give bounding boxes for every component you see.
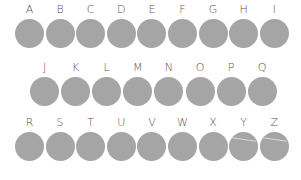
circle-token[interactable] bbox=[199, 132, 228, 161]
letter-label: C bbox=[76, 4, 105, 16]
circle-token[interactable] bbox=[260, 19, 289, 48]
letter-label: V bbox=[137, 117, 166, 129]
circle-token[interactable] bbox=[137, 19, 166, 48]
letter-label: L bbox=[92, 62, 121, 74]
circle-token[interactable] bbox=[137, 132, 166, 161]
circle-token[interactable] bbox=[168, 19, 197, 48]
circle-token[interactable] bbox=[46, 19, 75, 48]
circle-token[interactable] bbox=[186, 77, 215, 106]
letter-label: Q bbox=[248, 62, 277, 74]
circle-token[interactable] bbox=[229, 132, 258, 161]
circle-token[interactable] bbox=[260, 132, 289, 161]
circle-token[interactable] bbox=[76, 132, 105, 161]
circle-token[interactable] bbox=[30, 77, 59, 106]
letter-label: P bbox=[217, 62, 246, 74]
circle-token[interactable] bbox=[107, 132, 136, 161]
letter-label: E bbox=[137, 4, 166, 16]
letter-label: S bbox=[46, 117, 75, 129]
letter-label: H bbox=[229, 4, 258, 16]
circle-token[interactable] bbox=[76, 19, 105, 48]
circle-token[interactable] bbox=[15, 19, 44, 48]
circle-token[interactable] bbox=[123, 77, 152, 106]
letter-label: F bbox=[168, 4, 197, 16]
letter-label: G bbox=[199, 4, 228, 16]
circle-token[interactable] bbox=[61, 77, 90, 106]
letter-label: Y bbox=[229, 117, 258, 129]
circle-token[interactable] bbox=[46, 132, 75, 161]
letter-label: J bbox=[30, 62, 59, 74]
circle-token[interactable] bbox=[107, 19, 136, 48]
letter-label: K bbox=[61, 62, 90, 74]
letter-label: T bbox=[76, 117, 105, 129]
circle-token[interactable] bbox=[154, 77, 183, 106]
circle-token[interactable] bbox=[15, 132, 44, 161]
letter-label: U bbox=[107, 117, 136, 129]
circle-token[interactable] bbox=[217, 77, 246, 106]
letter-label: M bbox=[123, 62, 152, 74]
circle-token[interactable] bbox=[229, 19, 258, 48]
letter-label: W bbox=[168, 117, 197, 129]
letter-label: N bbox=[154, 62, 183, 74]
letter-label: Z bbox=[260, 117, 289, 129]
letter-label: R bbox=[15, 117, 44, 129]
letter-label: I bbox=[260, 4, 289, 16]
letter-label: A bbox=[15, 4, 44, 16]
letter-label: B bbox=[46, 4, 75, 16]
circle-token[interactable] bbox=[92, 77, 121, 106]
letter-label: O bbox=[186, 62, 215, 74]
circle-token[interactable] bbox=[168, 132, 197, 161]
letter-label: X bbox=[199, 117, 228, 129]
letter-label: D bbox=[107, 4, 136, 16]
circle-token[interactable] bbox=[248, 77, 277, 106]
circle-token[interactable] bbox=[199, 19, 228, 48]
